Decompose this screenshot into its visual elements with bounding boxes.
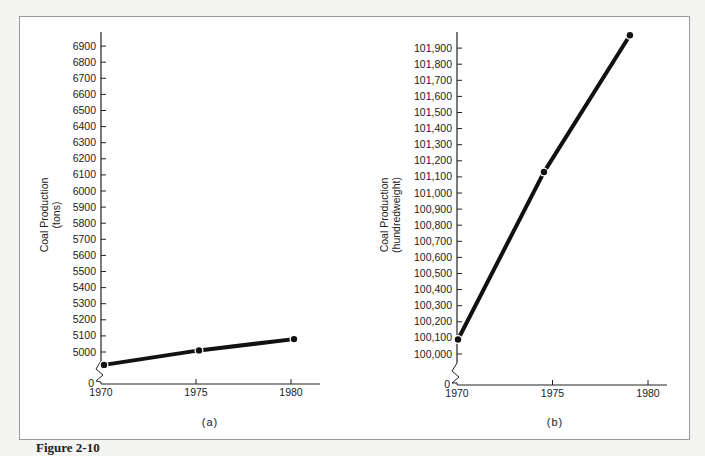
y-tick-label: 100,900 (414, 203, 452, 215)
axis-break-icon (452, 363, 459, 385)
y-tick-label: 6700 (73, 72, 97, 84)
y-tick-label: 101,500 (414, 106, 452, 118)
y-tick-label: 101,100 (414, 170, 452, 182)
y-tick-label: 6000 (73, 185, 97, 197)
y-tick-label: 6100 (73, 168, 97, 180)
y-axis-title: Coal Production(tons) (38, 177, 62, 252)
y-tick-label: 5000 (73, 346, 97, 358)
y-tick-label: 6600 (73, 88, 97, 100)
data-point (291, 336, 297, 342)
figure-caption: Figure 2-10 (36, 440, 100, 456)
y-tick-label: 6900 (73, 40, 97, 52)
panel-label: (a) (202, 416, 218, 428)
x-tick-label: 1980 (636, 387, 660, 399)
y-tick-label: 100,500 (414, 267, 452, 279)
data-point (196, 347, 202, 353)
y-tick-label: 100,300 (414, 299, 452, 311)
y-tick-label: 101,600 (414, 90, 452, 102)
y-tick-label: 100,400 (414, 283, 452, 295)
panel-label: (b) (547, 416, 563, 428)
y-tick-label: 5900 (73, 201, 97, 213)
y-tick-label: 101,200 (414, 154, 452, 166)
x-tick-label: 1975 (541, 387, 565, 399)
x-tick-label: 1970 (89, 386, 113, 398)
y-axis-title: Coal Production(hundredweight) (378, 177, 402, 253)
y-tick-label: 101,300 (414, 138, 452, 150)
y-tick-label: 6200 (73, 152, 97, 164)
y-tick-label: 101,800 (414, 58, 452, 70)
y-tick-label: 100,200 (414, 315, 452, 327)
x-tick-label: 1970 (445, 387, 469, 399)
y-tick-label: 5300 (73, 297, 97, 309)
y-tick-label: 5500 (73, 265, 97, 277)
y-tick-label: 5200 (73, 313, 97, 325)
data-point (455, 336, 461, 342)
y-tick-label: 100,600 (414, 251, 452, 263)
y-tick-label: 5700 (73, 233, 97, 245)
x-tick-label: 1980 (279, 386, 303, 398)
y-tick-label: 100,100 (414, 331, 452, 343)
y-tick-label: 100,700 (414, 235, 452, 247)
y-tick-label: 5600 (73, 249, 97, 261)
y-tick-label: 6800 (73, 56, 97, 68)
data-point (627, 32, 633, 38)
data-point (101, 362, 107, 368)
y-tick-label: 6400 (73, 120, 97, 132)
data-point (541, 169, 547, 175)
y-tick-label: 101,700 (414, 74, 452, 86)
y-tick-label: 5800 (73, 217, 97, 229)
y-tick-label: 100,000 (414, 348, 452, 360)
data-line (458, 35, 630, 339)
y-tick-label: 101,400 (414, 122, 452, 134)
y-tick-label: 5400 (73, 281, 97, 293)
y-tick-label: 6300 (73, 136, 97, 148)
y-tick-label: 101,900 (414, 42, 452, 54)
y-tick-label: 100,800 (414, 219, 452, 231)
y-tick-label: 6500 (73, 104, 97, 116)
y-tick-label: 5100 (73, 329, 97, 341)
x-tick-label: 1975 (184, 386, 208, 398)
y-tick-label: 101,000 (414, 187, 452, 199)
